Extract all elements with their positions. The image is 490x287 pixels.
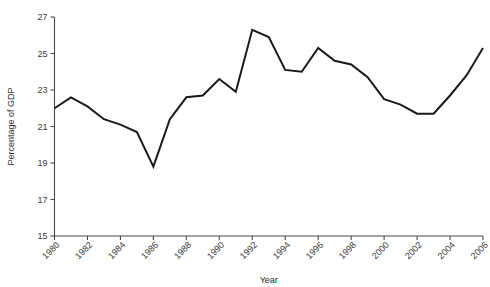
y-tick-label: 27: [37, 12, 47, 22]
y-axis-title: Percentage of GDP: [6, 87, 16, 165]
y-tick-label: 17: [37, 195, 47, 205]
y-tick-label: 23: [37, 85, 47, 95]
line-chart: 15171921232527 1980198219841986198819901…: [0, 0, 490, 287]
y-tick-label: 25: [37, 49, 47, 59]
y-tick-label: 15: [37, 231, 47, 241]
chart-svg: 15171921232527 1980198219841986198819901…: [0, 0, 490, 287]
x-axis-title: Year: [260, 275, 278, 285]
y-tick-label: 21: [37, 122, 47, 132]
y-tick-label: 19: [37, 158, 47, 168]
